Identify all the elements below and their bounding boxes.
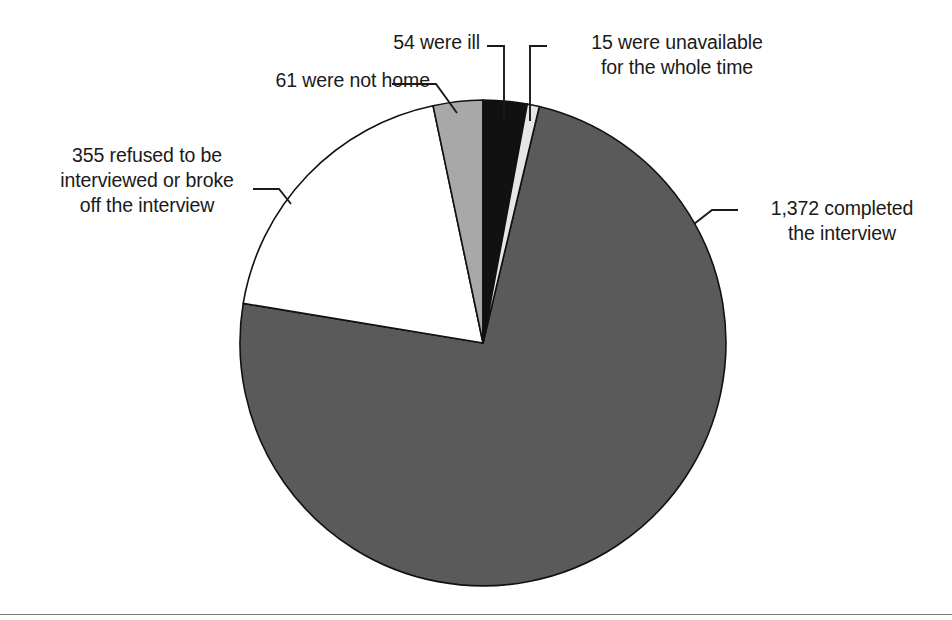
pie-label-nothome: 61 were not home xyxy=(160,68,430,93)
pie-label-completed: 1,372 completed the interview xyxy=(742,196,942,246)
pie-label-unavailable: 15 were unavailable for the whole time xyxy=(547,30,807,80)
pie-slices xyxy=(240,100,726,586)
pie-label-ill: 54 were ill xyxy=(300,30,480,55)
leader-line-completed xyxy=(694,210,738,224)
pie-chart-canvas xyxy=(0,0,952,620)
pie-label-refused: 355 refused to be interviewed or broke o… xyxy=(22,143,272,218)
pie-chart-figure: 54 were ill 15 were unavailable for the … xyxy=(0,0,952,620)
